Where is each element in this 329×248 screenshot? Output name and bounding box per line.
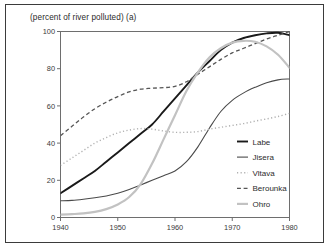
- legend-label-berounka: Berounka: [253, 184, 288, 193]
- x-axis-tick-label: 1960: [167, 223, 183, 232]
- y-axis-tick-label: 60: [47, 102, 55, 111]
- figure-root: (percent of river polluted) (a) 02040608…: [0, 0, 329, 248]
- legend-label-jisera: Jisera: [253, 153, 275, 162]
- x-axis-tick-label: 1940: [52, 223, 68, 232]
- x-axis-tick-label: 1970: [224, 223, 240, 232]
- y-axis-tick-label: 40: [47, 139, 55, 148]
- legend-label-labe: Labe: [253, 138, 271, 147]
- y-axis-tick-label: 20: [47, 176, 55, 185]
- line-chart: 02040608010019401950196019701980LabeJise…: [0, 0, 329, 248]
- x-axis-tick-label: 1980: [281, 223, 297, 232]
- legend-label-vltava: Vltava: [253, 169, 276, 178]
- y-axis-tick-label: 100: [43, 27, 55, 36]
- x-axis-tick-label: 1950: [110, 223, 126, 232]
- series-line-berounka: [61, 32, 290, 136]
- y-axis-tick-label: 80: [47, 64, 55, 73]
- legend-label-ohro: Ohro: [253, 200, 271, 209]
- legend: LabeJiseraVltavaBerounkaOhro: [237, 138, 287, 209]
- y-axis-tick-label: 0: [51, 213, 55, 222]
